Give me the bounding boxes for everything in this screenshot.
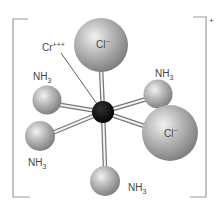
nh3-upper-right-label: NH3 (155, 68, 173, 81)
nh3-lower-left-sphere (25, 121, 55, 151)
left-bracket (13, 19, 30, 197)
charge-sign: + (209, 16, 214, 25)
nh3-bottom-label: NH3 (128, 182, 146, 195)
cr-center-sphere (92, 101, 114, 123)
nh3-upper-left-label: NH3 (33, 71, 51, 84)
cr-label: Cr+++ (42, 41, 65, 53)
right-bracket (190, 17, 206, 197)
nh3-upper-right-sphere (144, 80, 173, 109)
coordination-complex-diagram: + Cr+++ Cl− NH3 NH3 Cl− NH3 NH3 (0, 0, 223, 210)
nh3-bottom-sphere (90, 166, 120, 196)
nh3-upper-left-sphere (33, 86, 62, 115)
nh3-lower-left-label: NH3 (28, 157, 46, 170)
